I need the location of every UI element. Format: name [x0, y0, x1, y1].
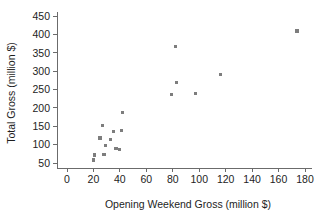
x-tick-label: 40	[114, 173, 126, 185]
y-axis-title: Total Gross (million $)	[5, 42, 17, 144]
x-tick-label: 140	[243, 173, 261, 185]
x-tick-label: 160	[270, 173, 288, 185]
x-tick-label: 180	[296, 173, 314, 185]
data-point	[101, 124, 104, 127]
y-tick-label: 350	[32, 47, 50, 59]
data-point	[112, 130, 115, 133]
data-point	[118, 148, 121, 151]
data-point	[194, 92, 197, 95]
data-point	[295, 29, 298, 32]
x-axis-ticks: 020406080100120140160180	[64, 168, 314, 185]
data-point	[174, 45, 177, 48]
data-point	[114, 147, 117, 150]
y-tick-label: 50	[38, 157, 50, 169]
data-point	[175, 81, 178, 84]
data-point	[121, 111, 124, 114]
y-axis: 50100150200250300350400450	[32, 10, 57, 169]
x-tick-label: 120	[217, 173, 235, 185]
data-point	[120, 129, 123, 132]
scatter-plot-figure: 50100150200250300350400450 0204060801001…	[0, 0, 334, 218]
data-point	[104, 144, 107, 147]
x-tick-label: 20	[88, 173, 100, 185]
y-tick-label: 450	[32, 10, 50, 22]
x-axis-title: Opening Weekend Gross (million $)	[105, 198, 271, 210]
data-point	[92, 158, 95, 161]
plot-canvas: 50100150200250300350400450 0204060801001…	[0, 0, 334, 218]
x-axis: 020406080100120140160180	[57, 168, 314, 185]
x-tick-label: 100	[190, 173, 208, 185]
y-axis-ticks: 50100150200250300350400450	[32, 10, 57, 169]
data-point	[170, 93, 173, 96]
y-tick-label: 150	[32, 120, 50, 132]
y-tick-label: 100	[32, 138, 50, 150]
data-point	[93, 153, 96, 156]
y-tick-label: 300	[32, 65, 50, 77]
data-point	[102, 153, 105, 156]
y-tick-label: 400	[32, 28, 50, 40]
x-tick-label: 60	[140, 173, 152, 185]
data-point	[219, 73, 222, 76]
x-tick-label: 0	[64, 173, 70, 185]
data-point	[109, 138, 112, 141]
data-points	[92, 29, 299, 161]
y-tick-label: 200	[32, 102, 50, 114]
y-tick-label: 250	[32, 83, 50, 95]
x-tick-label: 80	[167, 173, 179, 185]
data-point	[98, 136, 101, 139]
